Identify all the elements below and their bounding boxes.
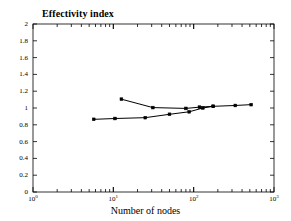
x-tick-exponent: 2: [196, 194, 199, 199]
data-point: [144, 116, 147, 119]
y-axis-tick-label: 1: [2, 104, 28, 112]
x-axis-tick-label: 100: [18, 194, 48, 203]
x-axis-title: Number of nodes: [0, 205, 291, 216]
data-point: [234, 104, 237, 107]
x-tick-exponent: 1: [116, 194, 119, 199]
x-tick-base: 10: [109, 195, 116, 203]
data-point: [188, 110, 191, 113]
x-axis-tick-label: 102: [179, 194, 209, 203]
data-point: [120, 98, 123, 101]
y-axis-tick-label: 0.2: [2, 171, 28, 179]
chart-figure: Effectivity index Number of nodes 00.20.…: [0, 0, 291, 221]
y-axis-tick-label: 0.4: [2, 154, 28, 162]
x-tick-base: 10: [189, 195, 196, 203]
data-point: [184, 107, 187, 110]
data-point: [92, 118, 95, 121]
data-point: [168, 113, 171, 116]
data-point: [250, 103, 253, 106]
y-axis-tick-label: 1.4: [2, 70, 28, 78]
data-point: [114, 117, 117, 120]
data-point: [212, 105, 215, 108]
y-axis-tick-label: 1.8: [2, 37, 28, 45]
y-axis-tick-label: 1.2: [2, 87, 28, 95]
x-tick-exponent: 0: [35, 194, 38, 199]
x-axis-tick-label: 103: [259, 194, 289, 203]
y-axis-tick-label: 1.6: [2, 54, 28, 62]
data-point: [198, 106, 201, 109]
x-axis-tick-label: 101: [98, 194, 128, 203]
chart-plot-area: [0, 0, 291, 221]
x-tick-exponent: 3: [276, 194, 279, 199]
y-axis-tick-label: 2: [2, 20, 28, 28]
data-point: [151, 106, 154, 109]
y-axis-tick-label: 0.8: [2, 121, 28, 129]
y-axis-tick-label: 0.6: [2, 138, 28, 146]
